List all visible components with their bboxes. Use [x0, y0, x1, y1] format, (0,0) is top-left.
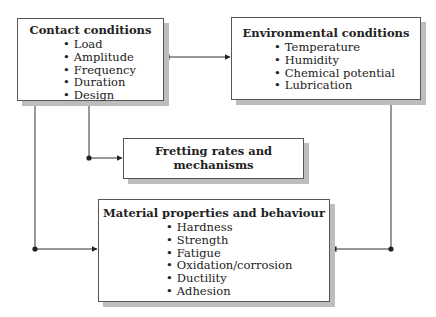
contact-conditions-title: Contact conditions	[18, 23, 163, 37]
list-item: Strength	[166, 234, 329, 247]
list-item: Humidity	[274, 54, 420, 67]
junction-dot	[86, 155, 91, 160]
environmental-conditions-box: Environmental conditions Temperature Hum…	[231, 17, 421, 100]
junction-dot	[388, 246, 393, 251]
fretting-title-line2: mechanisms	[124, 158, 303, 172]
material-properties-box: Material properties and behaviour Hardne…	[98, 199, 330, 302]
fretting-box: Fretting rates and mechanisms	[123, 138, 304, 179]
environmental-conditions-title: Environmental conditions	[232, 26, 420, 40]
environmental-conditions-list: Temperature Humidity Chemical potential …	[274, 41, 420, 92]
contact-conditions-box: Contact conditions Load Amplitude Freque…	[17, 18, 164, 101]
list-item: Lubrication	[274, 79, 420, 92]
list-item: Hardness	[166, 221, 329, 234]
material-properties-title: Material properties and behaviour	[99, 206, 329, 220]
list-item: Design	[63, 89, 163, 102]
list-item: Temperature	[274, 41, 420, 54]
junction-dot	[32, 246, 37, 251]
fretting-title-line1: Fretting rates and	[124, 144, 303, 158]
list-item: Amplitude	[63, 51, 163, 64]
list-item: Load	[63, 38, 163, 51]
material-properties-list: Hardness Strength Fatigue Oxidation/corr…	[166, 221, 329, 298]
contact-conditions-list: Load Amplitude Frequency Duration Design	[63, 38, 163, 102]
list-item: Adhesion	[166, 285, 329, 298]
